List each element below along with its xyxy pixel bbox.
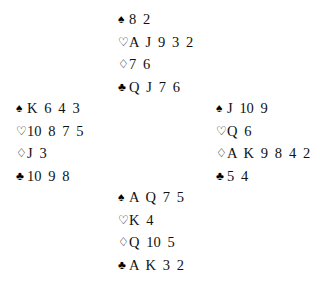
west-diamonds-row: ♢ J 3 <box>16 146 85 169</box>
north-clubs-row: ♣ Q J 7 6 <box>118 80 195 103</box>
west-clubs-row: ♣ 10 9 8 <box>16 169 85 192</box>
spade-suit-symbol: ♠ <box>16 102 27 114</box>
north-hearts-row: ♡ A J 9 3 2 <box>118 35 195 58</box>
west-hearts-row: ♡ 10 8 7 5 <box>16 124 85 147</box>
east-diamonds-row: ♢ A K 9 8 4 2 <box>216 146 312 169</box>
hand-north: ♠ 8 2 ♡ A J 9 3 2 ♢ 7 6 ♣ Q J 7 6 <box>118 12 195 102</box>
north-diamonds-cards: 7 6 <box>129 57 152 72</box>
south-clubs-row: ♣ A K 3 2 <box>118 258 186 281</box>
east-clubs-cards: 5 4 <box>227 169 250 184</box>
heart-suit-symbol: ♡ <box>16 125 27 137</box>
heart-suit-symbol: ♡ <box>118 36 129 48</box>
club-suit-symbol: ♣ <box>16 170 27 182</box>
hand-east: ♠ J 10 9 ♡ Q 6 ♢ A K 9 8 4 2 ♣ 5 4 <box>216 101 312 191</box>
diamond-suit-symbol: ♢ <box>118 58 129 70</box>
west-hearts-cards: 10 8 7 5 <box>27 124 85 139</box>
north-diamonds-row: ♢ 7 6 <box>118 57 195 80</box>
south-diamonds-cards: Q 10 5 <box>129 235 176 250</box>
spade-suit-symbol: ♠ <box>118 13 129 25</box>
spade-suit-symbol: ♠ <box>118 191 129 203</box>
west-clubs-cards: 10 9 8 <box>27 169 71 184</box>
north-spades-cards: 8 2 <box>129 12 152 27</box>
bridge-deal-diagram: ♠ 8 2 ♡ A J 9 3 2 ♢ 7 6 ♣ Q J 7 6 ♠ K 6 … <box>0 0 320 286</box>
diamond-suit-symbol: ♢ <box>216 147 227 159</box>
diamond-suit-symbol: ♢ <box>118 236 129 248</box>
heart-suit-symbol: ♡ <box>118 214 129 226</box>
north-spades-row: ♠ 8 2 <box>118 12 195 35</box>
diamond-suit-symbol: ♢ <box>16 147 27 159</box>
east-diamonds-cards: A K 9 8 4 2 <box>227 146 312 161</box>
west-spades-row: ♠ K 6 4 3 <box>16 101 85 124</box>
west-spades-cards: K 6 4 3 <box>27 101 81 116</box>
west-diamonds-cards: J 3 <box>27 146 48 161</box>
east-spades-cards: J 10 9 <box>227 101 269 116</box>
south-hearts-row: ♡ K 4 <box>118 213 186 236</box>
north-hearts-cards: A J 9 3 2 <box>129 35 195 50</box>
south-spades-cards: A Q 7 5 <box>129 190 186 205</box>
south-hearts-cards: K 4 <box>129 213 155 228</box>
north-clubs-cards: Q J 7 6 <box>129 80 182 95</box>
heart-suit-symbol: ♡ <box>216 125 227 137</box>
east-hearts-cards: Q 6 <box>227 124 253 139</box>
club-suit-symbol: ♣ <box>216 170 227 182</box>
south-clubs-cards: A K 3 2 <box>129 258 186 273</box>
south-spades-row: ♠ A Q 7 5 <box>118 190 186 213</box>
east-spades-row: ♠ J 10 9 <box>216 101 312 124</box>
hand-west: ♠ K 6 4 3 ♡ 10 8 7 5 ♢ J 3 ♣ 10 9 8 <box>16 101 85 191</box>
south-diamonds-row: ♢ Q 10 5 <box>118 235 186 258</box>
spade-suit-symbol: ♠ <box>216 102 227 114</box>
hand-south: ♠ A Q 7 5 ♡ K 4 ♢ Q 10 5 ♣ A K 3 2 <box>118 190 186 280</box>
club-suit-symbol: ♣ <box>118 259 129 271</box>
club-suit-symbol: ♣ <box>118 81 129 93</box>
east-hearts-row: ♡ Q 6 <box>216 124 312 147</box>
east-clubs-row: ♣ 5 4 <box>216 169 312 192</box>
